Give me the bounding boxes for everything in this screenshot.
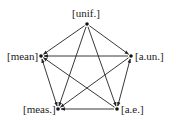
node-dot-unif	[85, 22, 89, 26]
node-dot-meas	[56, 107, 60, 111]
edge-aun-ae	[118, 59, 130, 106]
edge-unif-ae	[88, 27, 116, 106]
edge-ae-mean	[43, 58, 114, 108]
node-dot-ae	[115, 107, 119, 111]
node-label-meas: [meas.]	[23, 104, 56, 115]
node-label-unif: [unif.]	[72, 8, 100, 19]
edge-unif-meas	[59, 27, 86, 106]
node-label-ae: [a.e.]	[121, 104, 144, 115]
node-dot-mean	[39, 54, 43, 58]
node-label-mean: [mean]	[7, 51, 38, 62]
edge-unif-aun	[89, 26, 128, 54]
implication-diagram: [unif.] [mean] [a.un.] [meas.] [a.e.]	[0, 0, 173, 123]
node-label-aun: [a.un.]	[135, 51, 164, 62]
node-dot-aun	[129, 54, 133, 58]
edge-aun-meas	[60, 58, 128, 107]
